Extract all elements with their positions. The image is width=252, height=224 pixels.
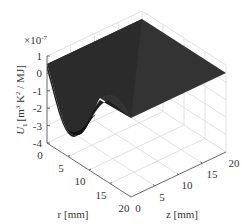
exponent-label: ×10-7	[24, 34, 48, 46]
svg-text:15: 15	[96, 189, 108, 201]
z-axis-label: z [mm]	[166, 208, 198, 220]
surface-plot: 1 0 -1 -2 -3 -4 ×10-7 0 5 10 15 20 0 5 1…	[0, 0, 252, 224]
surface	[47, 19, 226, 137]
svg-text:0: 0	[37, 67, 43, 79]
svg-text:-4: -4	[33, 137, 43, 149]
svg-text:10: 10	[182, 179, 194, 191]
u1-axis-label: U1[m3 K2 / MJ]	[14, 65, 29, 135]
svg-text:10: 10	[75, 175, 87, 187]
z-mm-tick-labels: 0 5 10 15 20	[135, 157, 240, 214]
svg-text:-2: -2	[33, 102, 42, 114]
r-tick-labels: 0 5 10 15 20	[37, 149, 130, 214]
svg-text:20: 20	[119, 202, 131, 214]
svg-text:20: 20	[229, 157, 241, 169]
svg-text:-3: -3	[33, 120, 43, 132]
svg-text:-1: -1	[33, 85, 42, 97]
r-axis-label: r [mm]	[58, 208, 89, 220]
svg-text:5: 5	[159, 191, 165, 203]
svg-text:15: 15	[207, 168, 219, 180]
svg-text:0: 0	[135, 202, 141, 214]
svg-text:5: 5	[58, 162, 64, 174]
svg-text:1: 1	[37, 50, 43, 62]
svg-text:0: 0	[37, 149, 43, 161]
z-tick-labels: 1 0 -1 -2 -3 -4	[33, 50, 43, 149]
